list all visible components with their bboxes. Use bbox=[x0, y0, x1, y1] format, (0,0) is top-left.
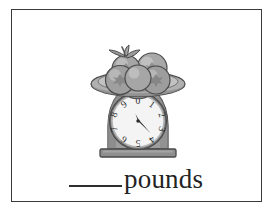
answer-blank-line[interactable] bbox=[69, 185, 122, 187]
answer-row: pounds bbox=[12, 160, 263, 203]
dial-digit-5: 5 bbox=[135, 138, 140, 149]
kitchen-scale-illustration: 0 1 2 3 4 5 6 7 8 9 bbox=[12, 10, 263, 160]
scale-drawing: 0 1 2 3 4 5 6 7 8 9 bbox=[12, 10, 263, 160]
tomatoes-group bbox=[106, 45, 171, 95]
tomato-leaf-a bbox=[109, 50, 125, 57]
unit-label: pounds bbox=[124, 162, 203, 196]
worksheet-card: 0 1 2 3 4 5 6 7 8 9 bbox=[11, 9, 262, 202]
scale-base-foot-highlight bbox=[103, 151, 173, 153]
tomato-middle bbox=[125, 65, 151, 91]
tomato-leaf-stem bbox=[109, 45, 140, 58]
tomato-middle-highlight bbox=[129, 68, 140, 79]
dial-needle-hub bbox=[136, 119, 139, 122]
